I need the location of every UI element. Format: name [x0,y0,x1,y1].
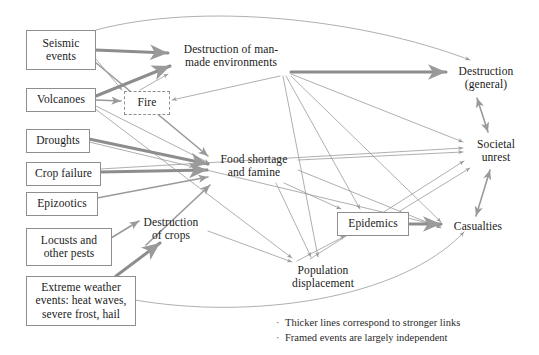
node-label: Crop failure [35,167,92,181]
node-label: Destruction of crops [144,216,199,243]
node-extreme: Extreme weather events: heat waves, seve… [26,276,136,326]
node-label: Fire [138,96,157,110]
legend-bullet-icon: · [276,330,285,345]
node-locusts: Locusts and other pests [26,228,112,266]
node-fire: Fire [124,91,170,115]
edge-foodshort-to-epidemics [284,183,341,209]
node-label: Epidemics [348,217,397,231]
edge-popdisp-to-societal [310,161,464,259]
node-foodshort: Food shortage and famine [211,150,297,182]
edge-seismic-to-destrman [95,50,168,53]
node-label: Droughts [36,134,80,148]
node-label: Destruction of man- made environments [184,43,279,70]
node-cropfailure: Crop failure [26,162,101,186]
node-epizootics: Epizootics [26,192,98,216]
node-label: Seismic events [42,37,79,64]
node-seismic: Seismic events [26,30,96,70]
edge-societal-to-destrgen [477,98,488,132]
edge-extreme-to-destrcrops [116,243,160,276]
legend-item: ·Thicker lines correspond to stronger li… [276,315,460,330]
node-label: Societal unrest [477,138,515,165]
node-popdisp: Population displacement [281,261,365,293]
node-label: Destruction (general) [459,65,514,92]
node-casualties: Casualties [444,219,512,235]
diagram-canvas: Seismic eventsVolcanoesDroughtsCrop fail… [0,0,539,355]
legend-item-text: Framed events are largely independent [285,332,448,343]
node-label: Casualties [454,220,502,234]
legend-item: ·Framed events are largely independent [276,330,460,345]
node-label: Epizootics [37,197,87,211]
edge-destrcrops-to-popdisp [208,231,292,262]
node-label: Population displacement [292,264,354,291]
node-volcanoes: Volcanoes [26,88,96,112]
edge-destrman-to-fire [172,76,280,100]
node-societal: Societal unrest [466,135,526,167]
node-label: Volcanoes [37,93,85,107]
edge-cropfailure-to-foodshort [100,170,207,172]
legend: ·Thicker lines correspond to stronger li… [276,315,460,345]
node-label: Food shortage and famine [221,153,288,180]
edge-casualties-to-societal [476,170,490,216]
legend-bullet-icon: · [276,315,285,330]
node-label: Locusts and other pests [41,234,97,261]
legend-item-text: Thicker lines correspond to stronger lin… [285,317,460,328]
edge-droughts-to-foodshort [89,139,208,164]
node-droughts: Droughts [26,129,90,153]
node-destrcrops: Destruction of crops [135,213,207,245]
edge-popdisp-to-epidemics [297,236,345,261]
edge-epizootics-to-foodshort [97,177,208,198]
edge-epidemics-to-societal [400,168,470,211]
node-label: Extreme weather events: heat waves, seve… [36,281,127,322]
edge-volcanoes-to-fire [96,100,121,101]
node-destrman: Destruction of man- made environments [172,40,290,72]
node-epidemics: Epidemics [337,212,409,236]
node-destrgen: Destruction (general) [448,62,524,94]
